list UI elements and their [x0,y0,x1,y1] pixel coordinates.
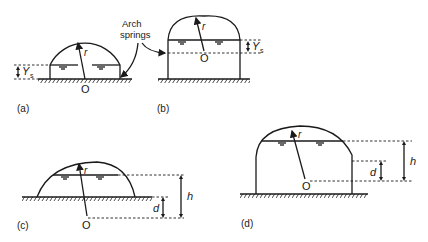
h-label: h [410,155,416,167]
radius-label: r [84,47,88,58]
panel-label: (a) [17,103,29,114]
center-label: O [200,52,209,64]
pointer-arrow [121,43,138,77]
ys-subscript: s [260,47,264,54]
center-label: O [81,83,90,95]
d-label: d [153,202,160,214]
annotation-line2: springs [120,29,151,40]
panel-label: (b) [157,103,169,114]
annotation-line1: Arch [122,18,142,29]
pointer-arrow [142,43,165,53]
radius-label: r [202,21,206,32]
water-level-icon [61,177,104,179]
ys-label: Y [22,65,30,77]
panel-d: r O d h (d) [240,126,416,229]
ys-subscript: s [30,72,34,79]
h-label: h [187,190,193,202]
water-level-icon [278,143,324,145]
d-label: d [370,166,377,178]
water-level-icon [178,42,223,44]
ys-label: Y [252,40,260,52]
center-label: O [302,180,311,192]
radius-label: r [298,129,302,140]
panel-c: r O d h (c) [17,162,193,231]
panel-label: (d) [241,218,253,229]
water-level-icon [59,67,105,69]
panel-b: r O Y s (b) [157,16,264,114]
arch-springs-annotation: Arch springs [120,18,165,77]
panel-label: (c) [17,220,29,231]
center-label: O [82,219,91,231]
panel-a: r O Y s (a) [14,43,132,114]
arch-culvert-diagram: r O Y s (a) Arch springs r O Y s (b) [0,0,428,242]
